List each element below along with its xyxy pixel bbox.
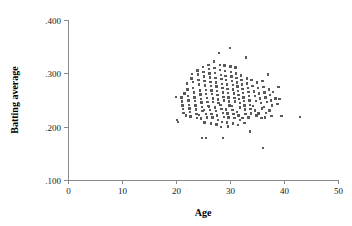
data-point [262, 86, 264, 88]
data-point [250, 112, 252, 114]
data-point [241, 83, 243, 85]
y-tick-label: .200 [45, 123, 61, 133]
data-point [224, 75, 226, 77]
data-point [233, 97, 235, 99]
data-point [194, 100, 196, 102]
x-tick-label: 0 [66, 186, 71, 196]
data-point [198, 83, 200, 85]
y-tick-label: .300 [45, 69, 61, 79]
data-point [210, 122, 212, 124]
data-point [207, 64, 209, 66]
data-point [175, 96, 177, 98]
data-point [215, 110, 217, 112]
data-point [247, 87, 249, 89]
data-point [235, 77, 237, 79]
data-point [226, 121, 228, 123]
data-point [243, 104, 245, 106]
data-point [232, 113, 234, 115]
data-point [192, 81, 194, 83]
x-tick-label: 50 [334, 186, 344, 196]
data-point [225, 108, 227, 110]
data-point [209, 109, 211, 111]
data-point [213, 67, 215, 69]
data-point [201, 106, 203, 108]
data-point [240, 79, 242, 81]
data-point [245, 56, 247, 58]
data-point [219, 64, 221, 66]
data-point [261, 80, 263, 82]
data-point [260, 102, 262, 104]
data-point [232, 84, 234, 86]
data-point [219, 69, 221, 71]
data-point [261, 107, 263, 109]
data-point [265, 112, 267, 114]
data-point [240, 74, 242, 76]
data-point [200, 101, 202, 103]
data-point [212, 97, 214, 99]
data-point [271, 104, 273, 106]
data-point [189, 111, 191, 113]
data-point [199, 89, 201, 91]
data-point [201, 137, 203, 139]
data-point [258, 92, 260, 94]
data-point [187, 99, 189, 101]
data-point [233, 92, 235, 94]
data-point [242, 92, 244, 94]
data-point [193, 91, 195, 93]
data-point [276, 103, 278, 105]
data-point [197, 79, 199, 81]
data-point [203, 75, 205, 77]
data-point [251, 85, 253, 87]
data-point [246, 82, 248, 84]
data-point [266, 101, 268, 103]
data-point [210, 89, 212, 91]
data-point [239, 106, 241, 108]
data-point [247, 91, 249, 93]
x-tick-label: 30 [226, 186, 236, 196]
data-point [280, 115, 282, 117]
data-point [232, 88, 234, 90]
data-point [188, 104, 190, 106]
data-point [249, 130, 251, 132]
data-point [235, 72, 237, 74]
data-point [222, 112, 224, 114]
x-tick-label: 10 [118, 186, 128, 196]
data-point [227, 92, 229, 94]
scatter-chart-figure: .100.200.300.40001020304050 Age Batting … [0, 0, 352, 226]
data-point [180, 96, 182, 98]
data-point [199, 93, 201, 95]
data-point [191, 73, 193, 75]
data-point [216, 90, 218, 92]
data-point [177, 121, 179, 123]
data-point [244, 108, 246, 110]
data-point [270, 115, 272, 117]
data-point [241, 117, 243, 119]
data-point [231, 80, 233, 82]
x-tick-label: 20 [172, 186, 182, 196]
data-point [205, 93, 207, 95]
data-point [236, 111, 238, 113]
data-point [212, 101, 214, 103]
data-point [230, 75, 232, 77]
data-point [237, 124, 239, 126]
data-point [249, 104, 251, 106]
data-point [189, 115, 191, 117]
data-point [226, 83, 228, 85]
data-point [222, 91, 224, 93]
data-point [220, 74, 222, 76]
data-point [187, 95, 189, 97]
data-point [229, 65, 231, 67]
data-point [195, 113, 197, 115]
data-point [224, 70, 226, 72]
data-point [259, 97, 261, 99]
data-point [268, 109, 270, 111]
data-point [216, 114, 218, 116]
data-point [257, 112, 259, 114]
data-point [255, 114, 257, 116]
data-point [268, 88, 270, 90]
x-tick-label: 40 [280, 186, 290, 196]
data-point [236, 81, 238, 83]
data-point [246, 77, 248, 79]
data-point [222, 137, 224, 139]
data-point [264, 116, 266, 118]
